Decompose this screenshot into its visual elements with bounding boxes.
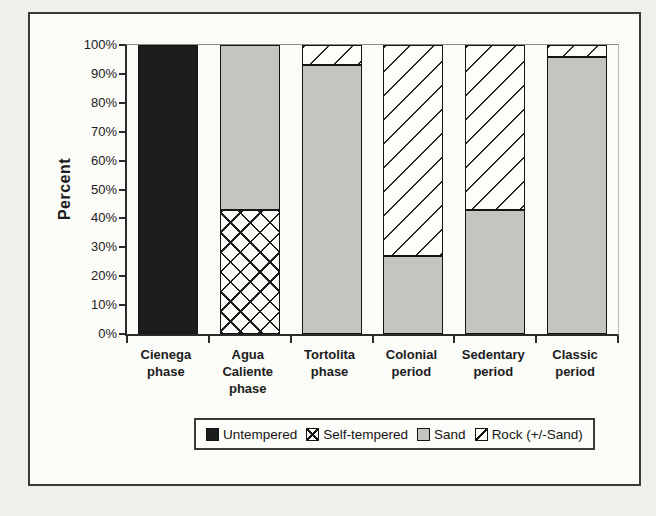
legend-label: Untempered [223,427,297,442]
legend-item: Rock (+/-Sand) [475,427,583,442]
legend-item: Self-tempered [306,427,408,442]
legend-label: Self-tempered [323,427,408,442]
scanned-chart-page: Percent 0%10%20%30%40%50%60%70%80%90%100… [0,0,656,516]
bar-segment-sand [383,256,443,334]
stacked-bar [220,45,280,334]
x-category-label: Sedentary period [455,347,531,381]
bar-segment-rock [302,45,362,65]
x-tick-mark [535,336,537,343]
bar-segment-untempered [138,45,198,334]
y-tick-label: 10% [65,297,117,312]
legend-item: Untempered [206,427,297,442]
x-tick-mark [208,336,210,343]
stacked-bar [138,45,198,334]
legend-swatch-untempered-icon [206,428,219,441]
y-tick-label: 40% [65,210,117,225]
x-category-label: Colonial period [373,347,449,381]
y-tick-mark [119,333,125,335]
x-category-label: Agua Caliente phase [210,347,286,398]
y-tick-label: 20% [65,268,117,283]
legend-swatch-rock-icon [475,428,488,441]
legend-label: Sand [434,427,466,442]
bar-segment-sand [220,45,280,210]
bar-segment-sand [302,65,362,334]
x-tick-mark [453,336,455,343]
legend-swatch-sand-icon [417,428,430,441]
y-tick-label: 30% [65,239,117,254]
plot-area: 0%10%20%30%40%50%60%70%80%90%100% [125,44,619,336]
y-tick-mark [119,217,125,219]
bar-segment-sand [465,210,525,334]
stacked-bar [547,45,607,334]
bar-segment-rock [465,45,525,210]
y-tick-mark [119,275,125,277]
x-category-label: Tortolita phase [292,347,368,381]
stacked-bar [302,45,362,334]
chart-outer-frame: Percent 0%10%20%30%40%50%60%70%80%90%100… [28,12,641,486]
y-tick-mark [119,160,125,162]
y-tick-mark [119,246,125,248]
x-category-label: Classic period [537,347,613,381]
y-tick-label: 0% [65,326,117,341]
y-tick-label: 80% [65,95,117,110]
bar-segment-rock [383,45,443,256]
legend-item: Sand [417,427,466,442]
y-tick-label: 70% [65,124,117,139]
bar-segment-sand [547,57,607,334]
y-tick-label: 50% [65,182,117,197]
y-tick-label: 90% [65,66,117,81]
stacked-bar [465,45,525,334]
legend-swatch-self-tempered-icon [306,428,319,441]
x-tick-mark [126,336,128,343]
x-tick-mark [290,336,292,343]
y-tick-mark [119,189,125,191]
legend: UntemperedSelf-temperedSandRock (+/-Sand… [194,418,595,450]
x-tick-mark [617,336,619,343]
x-tick-mark [372,336,374,343]
x-category-label: Cienega phase [128,347,204,381]
y-tick-mark [119,131,125,133]
stacked-bar [383,45,443,334]
y-tick-mark [119,44,125,46]
legend-label: Rock (+/-Sand) [492,427,583,442]
bar-segment-self-tempered [220,210,280,334]
y-tick-mark [119,73,125,75]
y-tick-mark [119,102,125,104]
bar-segment-rock [547,45,607,57]
y-tick-label: 60% [65,153,117,168]
y-tick-mark [119,304,125,306]
y-tick-label: 100% [65,37,117,52]
